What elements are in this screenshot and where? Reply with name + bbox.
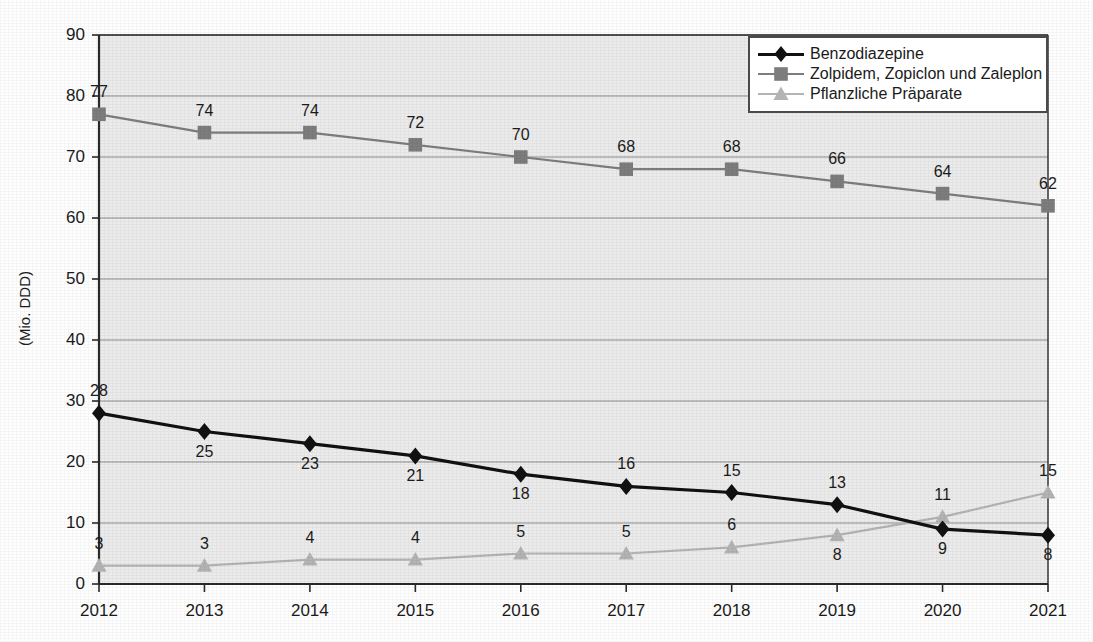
legend-item-2[interactable]: Zolpidem, Zopiclon und Zaleplon <box>758 64 1034 84</box>
x-axis-tick-label: 2018 <box>687 601 777 621</box>
data-label: 66 <box>828 150 846 168</box>
data-label: 8 <box>833 546 842 564</box>
data-point-marker <box>514 150 528 164</box>
legend-item-3[interactable]: Pflanzliche Präparate <box>758 84 1034 104</box>
legend-marker-square-icon <box>758 65 804 83</box>
data-label: 64 <box>934 163 952 181</box>
data-label: 5 <box>622 523 631 541</box>
data-label: 68 <box>617 138 635 156</box>
legend-label: Zolpidem, Zopiclon und Zaleplon <box>810 65 1042 83</box>
data-point-marker <box>198 126 212 140</box>
y-axis-tick-label: 70 <box>39 147 85 167</box>
x-axis-tick-label: 2017 <box>581 601 671 621</box>
data-label: 74 <box>196 102 214 120</box>
data-point-marker <box>830 175 844 189</box>
data-point-marker <box>725 162 739 176</box>
y-axis-tick-label: 60 <box>39 208 85 228</box>
x-axis-tick-label: 2019 <box>792 601 882 621</box>
data-label: 4 <box>411 529 420 547</box>
y-axis-title: (Mio. DDD) <box>16 249 33 369</box>
data-label: 16 <box>617 455 635 473</box>
data-label: 4 <box>305 529 314 547</box>
data-label: 3 <box>200 535 209 553</box>
data-label: 6 <box>727 516 736 534</box>
y-axis-tick-label: 0 <box>39 574 85 594</box>
data-label: 68 <box>723 138 741 156</box>
plot-background <box>99 35 1048 584</box>
data-label: 62 <box>1039 175 1057 193</box>
data-label: 77 <box>90 83 108 101</box>
x-axis-tick-label: 2021 <box>1003 601 1093 621</box>
data-point-marker <box>936 187 950 201</box>
data-label: 11 <box>934 486 951 504</box>
x-axis-tick-label: 2012 <box>54 601 144 621</box>
data-label: 25 <box>196 443 214 461</box>
data-label: 21 <box>406 467 424 485</box>
data-label: 18 <box>512 485 530 503</box>
x-axis-tick-label: 2013 <box>159 601 249 621</box>
chart-legend: BenzodiazepineZolpidem, Zopiclon und Zal… <box>748 36 1048 113</box>
data-label: 28 <box>90 382 108 400</box>
data-label: 15 <box>723 462 741 480</box>
y-axis-tick-label: 10 <box>39 513 85 533</box>
y-axis-tick-label: 50 <box>39 269 85 289</box>
legend-marker-diamond-icon <box>758 45 804 63</box>
legend-item-1[interactable]: Benzodiazepine <box>758 44 1034 64</box>
data-point-marker <box>619 162 633 176</box>
data-label: 3 <box>95 535 104 553</box>
data-label: 9 <box>938 540 947 558</box>
y-axis-tick-label: 20 <box>39 452 85 472</box>
data-label: 70 <box>512 126 530 144</box>
legend-marker-triangle-icon <box>758 85 804 103</box>
data-point-marker <box>409 138 423 152</box>
data-label: 8 <box>1044 546 1053 564</box>
y-axis-tick-label: 40 <box>39 330 85 350</box>
data-label: 23 <box>301 455 319 473</box>
x-axis-tick-label: 2016 <box>476 601 566 621</box>
data-label: 74 <box>301 102 319 120</box>
x-axis-tick-label: 2014 <box>265 601 355 621</box>
legend-label: Benzodiazepine <box>810 45 924 63</box>
x-axis-tick-label: 2015 <box>370 601 460 621</box>
data-label: 5 <box>516 523 525 541</box>
y-axis-tick-label: 30 <box>39 391 85 411</box>
x-axis-tick-label: 2020 <box>898 601 988 621</box>
y-axis-tick-label: 90 <box>39 25 85 45</box>
data-point-marker <box>1041 199 1055 213</box>
data-point-marker <box>92 108 106 122</box>
data-point-marker <box>303 126 317 140</box>
data-label: 13 <box>828 474 846 492</box>
chart-container: (Mio. DDD) 01020304050607080902012201320… <box>0 0 1093 642</box>
y-axis-tick-label: 80 <box>39 86 85 106</box>
legend-label: Pflanzliche Präparate <box>810 85 962 103</box>
data-label: 72 <box>406 114 424 132</box>
data-label: 15 <box>1039 462 1057 480</box>
